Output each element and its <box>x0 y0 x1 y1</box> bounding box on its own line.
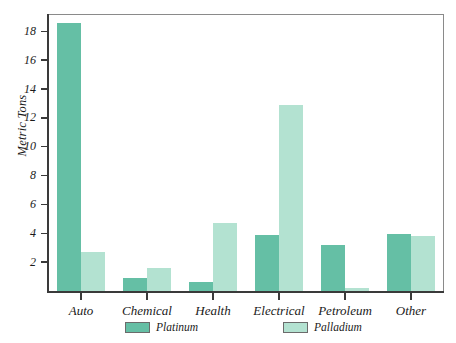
bar-platinum-other <box>387 234 411 291</box>
bar-platinum-health <box>189 282 213 291</box>
chart-legend: PlatinumPalladium <box>0 321 456 339</box>
bar-platinum-electrical <box>255 235 279 291</box>
bar-palladium-auto <box>81 252 105 291</box>
x-axis-tick-label: Other <box>396 303 426 319</box>
y-axis-tick <box>41 204 48 206</box>
bar-palladium-other <box>411 236 435 291</box>
bar-chart: Metric Tons 24681012141618 AutoChemicalH… <box>0 0 456 343</box>
y-axis-tick-label: 8 <box>10 169 36 181</box>
x-axis-tick <box>146 292 148 300</box>
x-axis-tick <box>80 292 82 300</box>
x-axis-tick-label: Petroleum <box>318 303 372 319</box>
bar-platinum-petroleum <box>321 245 345 291</box>
bar-palladium-electrical <box>279 105 303 291</box>
y-axis-tick-label: 2 <box>10 256 36 268</box>
y-axis-tick <box>41 146 48 148</box>
x-axis-tick <box>212 292 214 300</box>
y-axis-tick <box>41 117 48 119</box>
y-axis-tick-label: 12 <box>10 111 36 123</box>
legend-swatch-palladium <box>283 322 308 333</box>
x-axis-tick <box>344 292 346 300</box>
legend-item-palladium[interactable]: Palladium <box>283 321 362 333</box>
y-axis-tick-label: 14 <box>10 83 36 95</box>
bar-palladium-chemical <box>147 268 171 291</box>
bar-platinum-chemical <box>123 278 147 291</box>
bars-layer <box>48 14 444 291</box>
y-axis-tick-label: 10 <box>10 140 36 152</box>
legend-swatch-platinum <box>125 322 150 333</box>
y-axis-tick-label: 4 <box>10 227 36 239</box>
bar-platinum-auto <box>57 23 81 291</box>
x-axis-line <box>47 291 444 293</box>
y-axis-tick <box>41 59 48 61</box>
legend-item-platinum[interactable]: Platinum <box>125 321 198 333</box>
y-axis-tick <box>41 31 48 33</box>
x-axis-tick <box>278 292 280 300</box>
y-axis-tick-label: 6 <box>10 198 36 210</box>
bar-palladium-petroleum <box>345 288 369 291</box>
x-axis-tick-label: Health <box>195 303 230 319</box>
x-axis-tick-label: Auto <box>69 303 94 319</box>
y-axis-tick <box>41 175 48 177</box>
y-axis-tick <box>41 261 48 263</box>
y-axis-tick <box>41 233 48 235</box>
legend-label-platinum: Platinum <box>156 321 198 333</box>
bar-palladium-health <box>213 223 237 291</box>
y-axis-tick <box>41 88 48 90</box>
x-axis-tick <box>410 292 412 300</box>
x-axis-tick-label: Electrical <box>253 303 304 319</box>
legend-label-palladium: Palladium <box>314 321 362 333</box>
y-axis-tick-label: 18 <box>10 25 36 37</box>
y-axis-tick-label: 16 <box>10 54 36 66</box>
x-axis-tick-label: Chemical <box>122 303 172 319</box>
